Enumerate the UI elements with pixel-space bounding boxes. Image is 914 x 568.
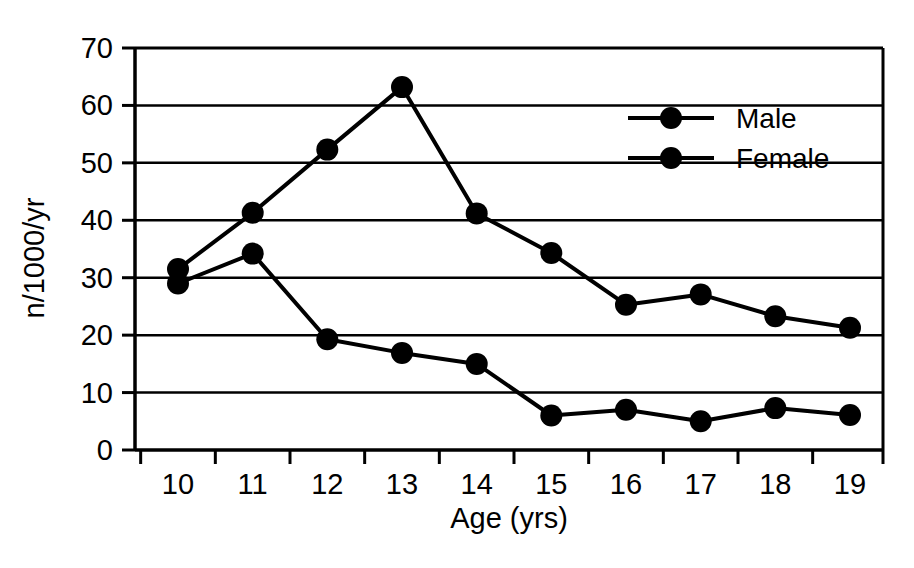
legend-label: Male	[736, 103, 797, 134]
data-point	[242, 202, 264, 224]
data-point	[764, 305, 786, 327]
x-tick-label: 17	[685, 468, 717, 500]
y-tick-label: 50	[81, 147, 113, 179]
y-tick-label: 60	[81, 89, 113, 121]
x-tick-label: 12	[311, 468, 343, 500]
x-tick-label: 14	[461, 468, 493, 500]
data-point	[242, 243, 264, 265]
x-tick-label: 10	[162, 468, 194, 500]
data-point	[466, 202, 488, 224]
data-point	[540, 405, 562, 427]
data-point	[316, 328, 338, 350]
x-tick-label: 16	[610, 468, 642, 500]
y-axis-title: n/1000/yr	[18, 197, 50, 318]
data-point	[690, 410, 712, 432]
data-point	[540, 242, 562, 264]
data-point	[615, 399, 637, 421]
data-point	[764, 397, 786, 419]
x-tick-label: 11	[238, 468, 268, 500]
x-axis-title: Age (yrs)	[450, 502, 568, 534]
data-point	[839, 317, 861, 339]
x-tick-label: 18	[759, 468, 791, 500]
data-point	[690, 283, 712, 305]
y-tick-label: 0	[97, 434, 113, 466]
y-tick-label: 70	[81, 32, 113, 64]
data-point	[839, 404, 861, 426]
y-tick-label: 30	[81, 262, 113, 294]
data-point	[391, 342, 413, 364]
x-tick-label: 15	[535, 468, 567, 500]
data-point	[466, 353, 488, 375]
data-point	[316, 139, 338, 161]
y-tick-label: 10	[81, 377, 113, 409]
legend-label: Female	[736, 143, 829, 174]
y-tick-label: 20	[81, 319, 113, 351]
legend-marker	[660, 147, 682, 169]
legend-marker	[660, 107, 682, 129]
data-point	[615, 294, 637, 316]
x-tick-label: 13	[386, 468, 418, 500]
data-point	[167, 273, 189, 295]
line-chart: 010203040506070 10111213141516171819 n/1…	[0, 0, 914, 568]
y-tick-label: 40	[81, 204, 113, 236]
data-point	[391, 76, 413, 98]
x-tick-label: 19	[834, 468, 866, 500]
chart-container: 010203040506070 10111213141516171819 n/1…	[0, 0, 914, 568]
